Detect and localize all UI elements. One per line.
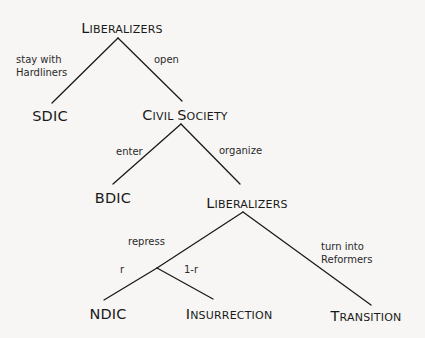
edge-label-enter: enter [116,146,143,159]
edge-label-stay-with-hardliners: stay with Hardliners [16,54,67,79]
edge-label-line: turn into [321,241,372,254]
node-label-rest: OCIETY [187,110,228,123]
edge-label-organize: organize [219,145,262,158]
edge-label-open: open [154,54,179,67]
node-label-rest: RANSITION [340,311,402,324]
edge-line-repress [157,212,243,268]
node-label-rest: NSURRECTION [190,309,272,322]
node-root-liberalizers: LIBERALIZERS [81,21,162,36]
node-civil-society: CIVIL SOCIETY [142,108,228,123]
node-label: NDIC [89,306,126,322]
node-ndic: NDIC [89,307,126,322]
node-insurrection: INSURRECTION [186,307,273,322]
node-liberalizers-second: LIBERALIZERS [206,196,287,211]
edge-label-line: Hardliners [16,67,67,80]
node-label-initial: S [177,107,186,123]
edge-label-line: Reformers [321,254,372,267]
edge-label-repress: repress [128,236,165,249]
edge-line-r [104,268,157,300]
node-label-initial: T [331,308,340,324]
edge-label-one-minus-r: 1-r [184,264,198,277]
tree-edges [0,0,425,338]
node-label-rest: IBERALIZERS [90,23,163,36]
edge-label-line: stay with [16,54,67,67]
edge-label-turn-into-reformers: turn into Reformers [321,241,372,266]
edge-label-r: r [120,264,124,277]
node-label-initial: C [142,107,152,123]
node-label: SDIC [32,108,68,124]
edge-line-open [118,38,182,101]
node-bdic: BDIC [95,191,131,206]
node-label-rest: IVIL [153,110,178,123]
node-label: BDIC [95,190,131,206]
node-sdic: SDIC [32,109,68,124]
node-transition: TRANSITION [331,309,402,324]
node-label-rest: IBERALIZERS [215,198,288,211]
